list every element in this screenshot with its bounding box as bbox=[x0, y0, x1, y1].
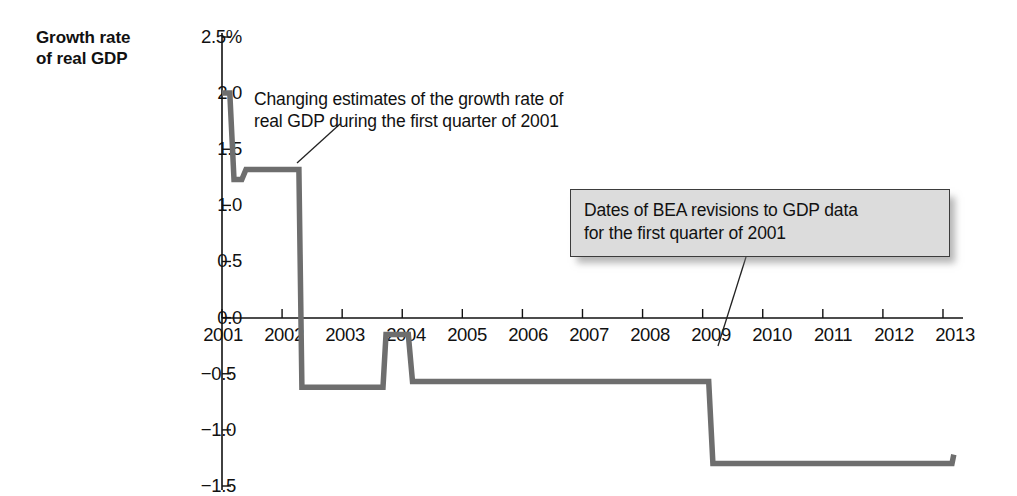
bea-revisions-leader-line bbox=[718, 257, 746, 346]
bea-revisions-callout: Dates of BEA revisions to GDP data for t… bbox=[570, 189, 950, 257]
gdp-estimate-line bbox=[222, 93, 954, 463]
changing-estimates-callout: Changing estimates of the growth rate of… bbox=[254, 88, 563, 133]
x-axis-ticks bbox=[222, 309, 943, 318]
